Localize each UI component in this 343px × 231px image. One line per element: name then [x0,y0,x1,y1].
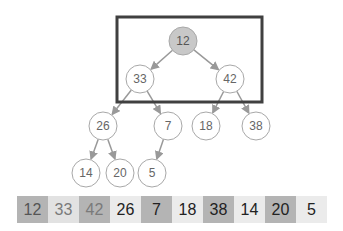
tree-edge [194,50,218,70]
node-label: 12 [176,34,190,48]
node-label: 33 [133,72,147,86]
tree-edge [151,50,172,69]
array-cell: 18 [172,196,203,223]
node-label: 38 [249,119,263,133]
tree-edge [157,139,164,159]
node-label: 18 [199,119,213,133]
node-label: 42 [223,72,237,86]
node-label: 14 [79,166,93,180]
node-label: 20 [113,166,127,180]
array-cell: 12 [17,196,48,223]
array-cell: 33 [48,196,79,223]
array-cell: 7 [141,196,172,223]
tree-node: 14 [72,159,100,187]
array-cell: 26 [110,196,141,223]
node-label: 26 [96,119,110,133]
array-cell: 14 [234,196,265,223]
tree-node: 7 [154,112,182,140]
tree-node: 26 [89,112,117,140]
array-cell: 5 [296,196,327,223]
node-label: 5 [149,166,156,180]
tree-node: 20 [106,159,134,187]
array-cell: 42 [79,196,110,223]
tree-node: 33 [126,65,154,93]
tree-node: 38 [242,112,270,140]
heap-array: 123342267183814205 [17,196,327,223]
tree-node: 18 [192,112,220,140]
array-cell: 20 [265,196,296,223]
tree-edge [108,139,115,159]
tree-node: 42 [216,65,244,93]
tree-edge [91,139,98,159]
array-cell: 38 [203,196,234,223]
node-label: 7 [165,119,172,133]
tree-node: 5 [138,159,166,187]
tree-node: 12 [169,27,197,55]
